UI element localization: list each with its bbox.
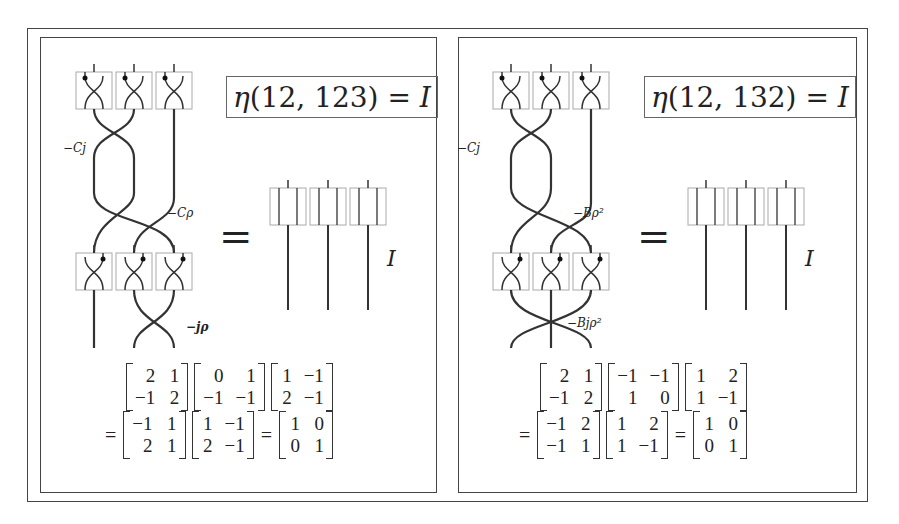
matrix-entry: 2 xyxy=(718,365,738,387)
crossing-strand xyxy=(582,257,600,290)
marker-dot xyxy=(518,257,523,262)
crossing-label: −Cj xyxy=(63,141,86,155)
matrix-equation: 21−1201−1−11−12−1=−11211−12−1=1001 xyxy=(101,363,336,459)
matrix: 1−12−1 xyxy=(192,413,254,457)
crossing-strand xyxy=(502,257,520,290)
matrix: 01−1−1 xyxy=(194,365,264,409)
crossing-strand xyxy=(582,257,600,290)
marker-dot xyxy=(141,257,146,262)
crossing-label: −Cj xyxy=(457,141,480,155)
matrix-equation: 21−12−1−110121−1=−12−11121−1=1001 xyxy=(515,363,750,459)
matrix-entry: −1 xyxy=(549,387,569,409)
crossing-strand xyxy=(165,76,183,109)
crossing-strand xyxy=(502,257,520,290)
identity-box xyxy=(270,188,306,225)
matrix-entry: −1 xyxy=(132,413,152,435)
matrix: 1−12−1 xyxy=(271,365,333,409)
matrix-entry: 1 xyxy=(726,435,738,457)
title-rhs: I xyxy=(420,81,431,114)
matrix-entry: 2 xyxy=(201,435,213,457)
matrix: 1001 xyxy=(279,413,333,457)
marker-dot xyxy=(181,257,186,262)
crossing-label: −Bjρ² xyxy=(567,316,601,330)
crossing-strand xyxy=(125,76,143,109)
crossing-strand xyxy=(502,76,520,109)
equals-sign: = xyxy=(675,424,686,447)
crossing-strand xyxy=(502,76,520,109)
matrix-entry: 1 xyxy=(288,413,300,435)
strand xyxy=(134,290,174,348)
crossing-strand xyxy=(85,76,103,109)
matrix-entry: 2 xyxy=(135,365,155,387)
matrix: −1121 xyxy=(123,413,185,457)
crossing-strand xyxy=(542,76,560,109)
matrix-entry: 2 xyxy=(167,387,179,409)
matrix-entry: 0 xyxy=(288,435,300,457)
identity-box xyxy=(310,188,346,225)
matrix-entry: 0 xyxy=(649,387,669,409)
matrix-entry: 1 xyxy=(165,413,177,435)
crossing-strand xyxy=(542,76,560,109)
matrix-entry: −1 xyxy=(546,413,566,435)
title-equation: η(12, 123) = I xyxy=(226,76,438,118)
eta-symbol: η xyxy=(651,81,668,114)
matrix-entry: 1 xyxy=(694,365,706,387)
strand xyxy=(94,109,134,158)
title-rhs: I xyxy=(838,81,849,114)
strand xyxy=(134,290,174,348)
marker-dot xyxy=(540,76,545,81)
matrix-entry: 1 xyxy=(702,413,714,435)
matrix-entry: 1 xyxy=(235,365,255,387)
matrix-row-2: =−11211−12−1=1001 xyxy=(101,411,336,459)
matrix: 121−1 xyxy=(685,365,747,409)
matrix-entry: −1 xyxy=(135,387,155,409)
crossing-strand xyxy=(165,257,183,290)
crossing-strand xyxy=(165,76,183,109)
matrix-entry: 1 xyxy=(280,365,292,387)
matrix-entry: 2 xyxy=(549,365,569,387)
marker-dot xyxy=(558,257,563,262)
strand xyxy=(511,109,551,158)
matrix: 21−12 xyxy=(126,365,188,409)
matrix-entry: 2 xyxy=(579,413,591,435)
matrix-entry: 2 xyxy=(581,387,593,409)
crossing-strand xyxy=(165,257,183,290)
matrix-entry: 1 xyxy=(165,435,177,457)
crossing-strand xyxy=(582,76,600,109)
matrix-entry: −1 xyxy=(639,435,659,457)
matrix-row-1: 21−1201−1−11−12−1 xyxy=(123,363,336,411)
matrix-entry: −1 xyxy=(225,413,245,435)
matrix-entry: −1 xyxy=(235,387,255,409)
marker-dot xyxy=(598,257,603,262)
equals-sign: = xyxy=(261,424,272,447)
crossing-strand xyxy=(125,257,143,290)
matrix-entry: 2 xyxy=(639,413,659,435)
title-equals: = xyxy=(379,81,420,114)
crossing-strand xyxy=(125,76,143,109)
matrix-entry: 0 xyxy=(312,413,324,435)
marker-dot xyxy=(580,76,585,81)
matrix-entry: −1 xyxy=(617,365,637,387)
matrix-entry: −1 xyxy=(304,387,324,409)
eta-symbol: η xyxy=(233,81,250,114)
matrix-entry: 1 xyxy=(579,435,591,457)
identity-box xyxy=(768,188,804,225)
matrix-entry: 2 xyxy=(280,387,292,409)
identity-box xyxy=(350,188,386,225)
matrix-entry: −1 xyxy=(718,387,738,409)
matrix-entry: 0 xyxy=(726,413,738,435)
matrix-entry: −1 xyxy=(649,365,669,387)
matrix-entry: 1 xyxy=(167,365,179,387)
panel-eta-12-132: η(12, 132) = I = I −Cj −Bρ² −Bjρ² 21−12−… xyxy=(458,37,857,493)
matrix-entry: 1 xyxy=(201,413,213,435)
matrix: 121−1 xyxy=(606,413,668,457)
matrix-entry: 1 xyxy=(312,435,324,457)
marker-dot xyxy=(500,76,505,81)
matrix-entry: −1 xyxy=(304,365,324,387)
identity-box xyxy=(688,188,724,225)
crossing-strand xyxy=(85,76,103,109)
equals-sign: = xyxy=(105,424,116,447)
matrix-entry: 1 xyxy=(615,435,627,457)
crossing-strand xyxy=(85,257,103,290)
strand xyxy=(511,158,551,253)
